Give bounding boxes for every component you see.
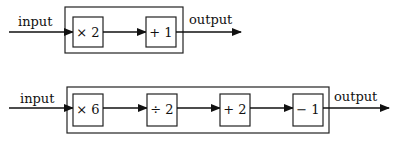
output-label: output: [189, 12, 233, 27]
operation-label: − 1: [296, 102, 319, 117]
input-label: input: [20, 91, 55, 106]
function-machine-diagrams: input × 2 + 1 output input × 6 ÷ 2 + 2 −…: [0, 0, 394, 145]
function-machine-2: input × 6 ÷ 2 + 2 − 1 output: [9, 87, 389, 133]
operation-label: × 2: [76, 25, 99, 40]
operation-label: + 1: [149, 25, 172, 40]
operation-label: + 2: [223, 102, 246, 117]
output-label: output: [334, 89, 378, 104]
input-label: input: [18, 14, 53, 29]
machine-outer-box: [67, 87, 329, 133]
operation-label: × 6: [76, 102, 99, 117]
operation-label: ÷ 2: [150, 102, 173, 117]
function-machine-1: input × 2 + 1 output: [9, 7, 241, 53]
